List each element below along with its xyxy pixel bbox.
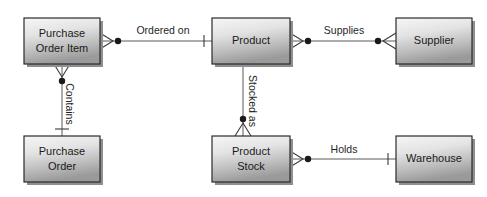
er-diagram-canvas: Purchase Order Item Purchase Order Produ…	[0, 0, 487, 197]
warehouse-label-line1: Warehouse	[406, 152, 462, 164]
entity-supplier[interactable]: Supplier	[396, 18, 475, 67]
relationship-label-supplies: Supplies	[324, 24, 364, 36]
entity-warehouse[interactable]: Warehouse	[396, 136, 475, 185]
purchase-order-label-line2: Order	[48, 160, 76, 172]
relationship-label-ordered-on: Ordered on	[136, 24, 189, 36]
zero-dot-ordered-on-left	[115, 38, 121, 44]
product-stock-label-line1: Product	[232, 145, 270, 157]
entity-product-stock[interactable]: Product Stock	[212, 136, 293, 185]
purchase-order-label-line1: Purchase	[39, 145, 85, 157]
zero-dot-holds-left	[305, 156, 311, 162]
entity-purchase-order-item[interactable]: Purchase Order Item	[24, 18, 103, 67]
relationship-label-stocked-as: Stocked as	[247, 75, 259, 127]
entity-purchase-order[interactable]: Purchase Order	[24, 136, 103, 185]
relationship-label-contains: Contains	[64, 83, 76, 124]
zero-dot-supplies-right	[375, 38, 381, 44]
supplier-label-line1: Supplier	[414, 34, 455, 46]
zero-dot-supplies-left	[305, 38, 311, 44]
relationship-label-holds: Holds	[331, 143, 358, 155]
purchase-order-item-label-line1: Purchase	[39, 27, 85, 39]
er-diagram-svg: Purchase Order Item Purchase Order Produ…	[0, 0, 487, 197]
purchase-order-item-label-line2: Order Item	[36, 42, 89, 54]
entity-product[interactable]: Product	[212, 18, 293, 67]
zero-dot-stocked-as-bottom	[240, 116, 246, 122]
product-stock-label-line2: Stock	[237, 160, 265, 172]
product-label-line1: Product	[232, 34, 270, 46]
